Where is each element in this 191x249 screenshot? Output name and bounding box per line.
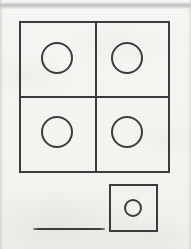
circle-top-left — [41, 42, 73, 74]
answer-line — [33, 228, 105, 230]
circle-top-right — [111, 42, 143, 74]
page-right-edge-shadow — [188, 0, 191, 249]
circle-single-square — [124, 199, 142, 217]
circle-bottom-left — [41, 116, 73, 148]
page-left-edge-shadow — [0, 0, 3, 249]
grid-horizontal-divider — [19, 96, 170, 98]
scan-artifact-band — [0, 2, 191, 9]
scanned-page — [0, 0, 191, 249]
circle-bottom-right — [111, 116, 143, 148]
